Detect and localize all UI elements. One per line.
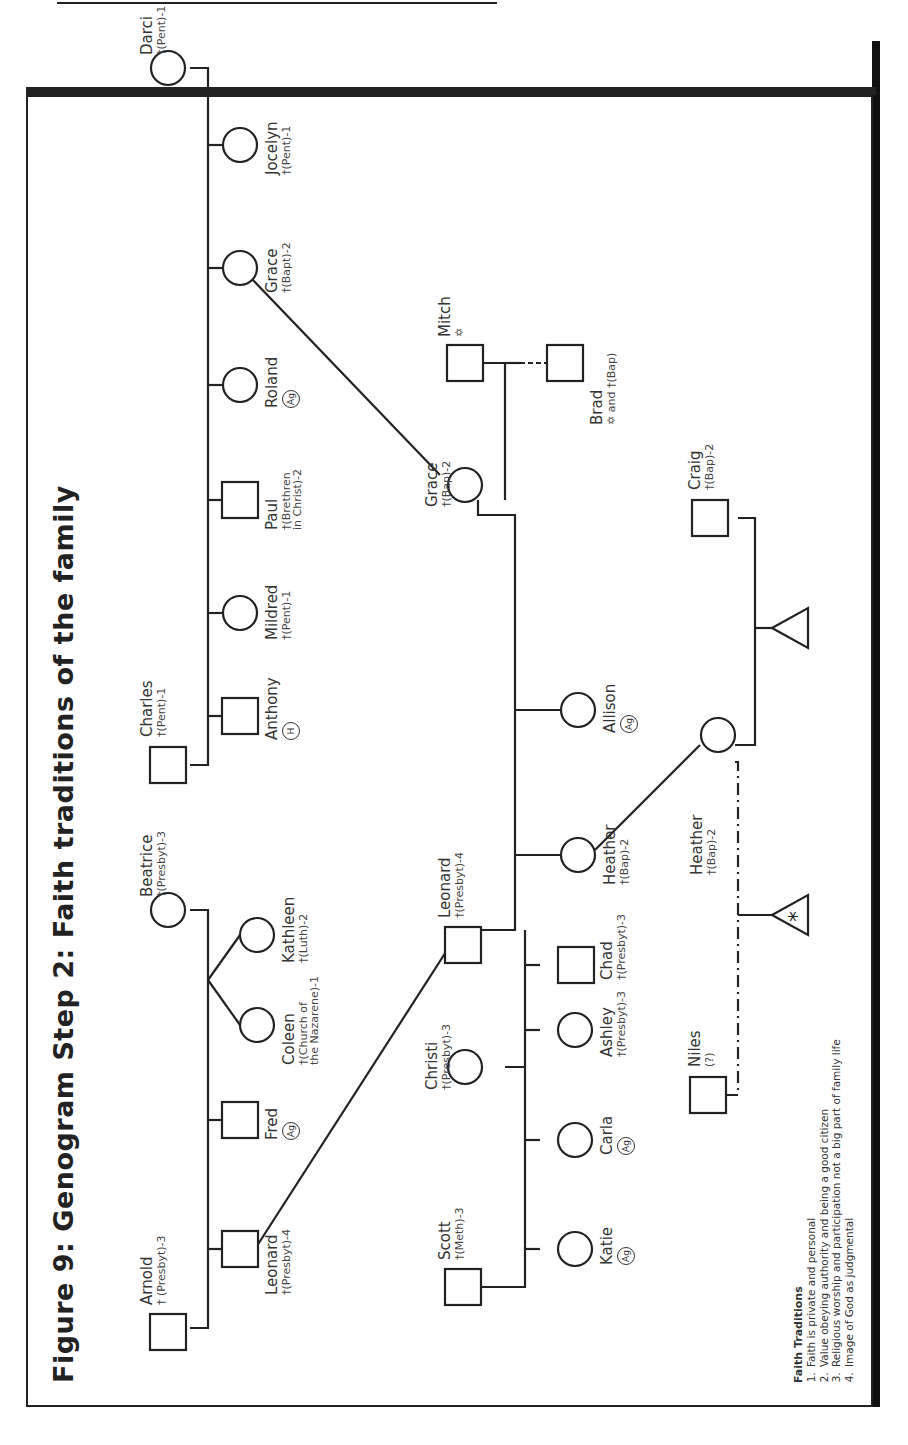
person-heather-g4 (561, 838, 595, 872)
legend-item: Image of God as judgmental (843, 1039, 856, 1369)
marriage-line-scott-christi (478, 1067, 525, 1287)
label-roland: Roland Ag (265, 357, 300, 408)
marriage-line-heather-craig (735, 518, 755, 745)
person-niles (690, 1077, 726, 1113)
label-coleen: Coleen †(Church of the Nazarene)-1 (282, 976, 321, 1065)
legend-title: Faith Traditions (792, 1039, 805, 1383)
legend-item: Religious worship and participation not … (830, 1039, 843, 1369)
label-scott: Scott †(Meth)-3 (438, 1207, 465, 1260)
label-grace-g2: Grace †(Bapt)-2 (265, 242, 292, 293)
agnostic-badge-icon: Ag (282, 390, 300, 408)
marriage-line-leonard-grace (478, 500, 515, 945)
label-allison: Allison Ag (603, 684, 638, 733)
agnostic-badge-icon: Ag (620, 715, 638, 733)
legend-list: Faith is private and personal Value obey… (805, 1039, 855, 1383)
person-kathleen (240, 918, 274, 952)
label-mitch: Mitch ✡ (438, 296, 465, 337)
label-kathleen: Kathleen †(Luth)-2 (282, 897, 309, 963)
label-paul: Paul †(Brethren in Christ)-2 (265, 469, 304, 530)
genogram-page: Figure 9: Genogram Step 2: Faith traditi… (0, 0, 908, 1445)
person-allison (561, 693, 595, 727)
label-niles: Niles (?) (688, 1030, 715, 1067)
label-ashley: Ashley †(Presbyt)-3 (600, 991, 627, 1057)
label-leonard-g2: Leonard †(Presbyt)-4 (265, 1229, 292, 1295)
person-carla (558, 1123, 592, 1157)
person-chad (558, 947, 594, 983)
label-katie: Katie Ag (600, 1227, 635, 1265)
label-heather-g5: Heather †(Bap)-2 (690, 815, 717, 875)
label-grace-g3: Grace †(Bap)-2 (425, 461, 452, 507)
agnostic-badge-icon: Ag (617, 1137, 635, 1155)
person-scott (445, 1269, 481, 1305)
label-christi: Christi †(Presbyt)-3 (425, 1024, 452, 1090)
person-heather-g5 (701, 718, 735, 752)
h-badge-icon: H (282, 722, 300, 740)
marriage-line-arnold-beatrice (190, 910, 208, 1328)
marriage-line-charles-darci (190, 68, 208, 765)
label-jocelyn: Jocelyn †(Pent)-1 (265, 121, 292, 175)
label-craig: Craig †(Bap)-2 (688, 444, 715, 490)
person-grace-g3 (448, 468, 482, 502)
label-charles: Charles †(Pent)-1 (140, 680, 167, 737)
person-paul (222, 482, 258, 518)
child-line-twins (208, 935, 240, 980)
faith-traditions-legend: Faith Traditions Faith is private and pe… (792, 1039, 856, 1383)
person-coleen (240, 1008, 274, 1042)
person-arnold (150, 1314, 186, 1350)
person-anthony (222, 698, 258, 734)
person-leonard-g2 (222, 1231, 258, 1267)
person-craig (692, 500, 728, 536)
label-arnold: Arnold † (Presbyt)-3 (140, 1235, 167, 1305)
label-brad: Brad ✡ and †(Bap) (590, 353, 617, 425)
person-jocelyn (223, 128, 257, 162)
person-brad (547, 345, 583, 381)
person-darci (151, 51, 185, 85)
person-grace-g2 (223, 251, 257, 285)
child-line-twins (208, 980, 240, 1025)
person-ashley (558, 1013, 592, 1047)
person-fred (222, 1102, 258, 1138)
relationship-line-heather-niles (725, 762, 738, 1095)
pregnancy-triangle (772, 608, 808, 648)
person-mitch (447, 345, 483, 381)
label-anthony: Anthony H (265, 677, 300, 740)
person-beatrice (151, 893, 185, 927)
label-chad: Chad †(Presbyt)-3 (600, 914, 627, 980)
legend-item: Value obeying authority and being a good… (818, 1039, 831, 1369)
person-leonard-g3 (445, 927, 481, 963)
person-christi (448, 1050, 482, 1084)
person-katie (558, 1232, 592, 1266)
label-darci: Darci †(Pent)-1 (140, 6, 167, 55)
star-of-david-icon: ✡ (454, 296, 466, 337)
label-fred: Fred Ag (265, 1108, 300, 1140)
asterisk-icon: * (784, 911, 809, 922)
agnostic-badge-icon: Ag (282, 1122, 300, 1140)
legend-item: Faith is private and personal (805, 1039, 818, 1369)
label-mildred: Mildred †(Pent)-1 (265, 585, 292, 640)
agnostic-badge-icon: Ag (617, 1247, 635, 1265)
label-heather-g4: Heather †(Bap)-2 (603, 825, 630, 885)
person-charles (150, 747, 186, 783)
label-leonard-g3: Leonard †(Presbyt)-4 (438, 852, 465, 918)
person-roland (223, 368, 257, 402)
person-mildred (223, 596, 257, 630)
label-carla: Carla Ag (600, 1116, 635, 1155)
label-beatrice: Beatrice †(Presbyt)-3 (140, 831, 167, 897)
